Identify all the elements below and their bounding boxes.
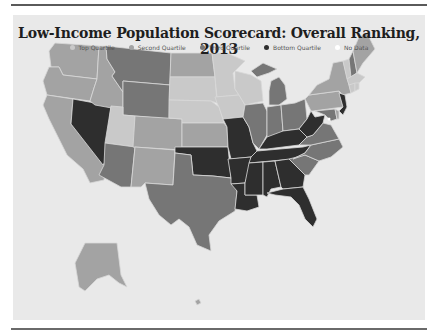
us-choropleth-map xyxy=(13,15,425,320)
top-divider xyxy=(11,4,427,6)
legend-swatch-icon xyxy=(70,45,75,50)
state-RI[interactable] xyxy=(355,83,359,91)
legend-swatch-icon xyxy=(335,45,340,50)
legend-label: Top Quartile xyxy=(79,44,115,51)
legend-item-no-data: No Data xyxy=(335,44,368,51)
state-DC[interactable] xyxy=(328,118,331,121)
legend-item-second-quartile: Second Quartile xyxy=(129,44,186,51)
legend-label: Third Quartile xyxy=(209,44,250,51)
map-panel: Low-Income Population Scorecard: Overall… xyxy=(13,15,425,320)
legend-item-top-quartile: Top Quartile xyxy=(70,44,115,51)
legend-swatch-icon xyxy=(200,45,205,50)
legend-swatch-icon xyxy=(264,45,269,50)
state-KS[interactable] xyxy=(182,123,228,147)
legend-swatch-icon xyxy=(129,45,134,50)
state-CO[interactable] xyxy=(133,116,182,150)
state-NM[interactable] xyxy=(131,147,175,187)
legend-label: Bottom Quartile xyxy=(273,44,321,51)
legend-item-bottom-quartile: Bottom Quartile xyxy=(264,44,321,51)
state-AZ[interactable] xyxy=(99,143,135,187)
legend: Top Quartile Second Quartile Third Quart… xyxy=(13,44,425,51)
state-FL[interactable] xyxy=(267,187,317,227)
legend-label: Second Quartile xyxy=(138,44,186,51)
map-title: Low-Income Population Scorecard: Overall… xyxy=(13,25,425,57)
bottom-divider xyxy=(11,328,427,330)
state-SD[interactable] xyxy=(169,77,217,103)
legend-item-third-quartile: Third Quartile xyxy=(200,44,250,51)
state-HI[interactable] xyxy=(195,299,201,305)
legend-label: No Data xyxy=(344,44,368,51)
state-AK[interactable] xyxy=(75,243,127,291)
state-WY[interactable] xyxy=(123,81,170,119)
